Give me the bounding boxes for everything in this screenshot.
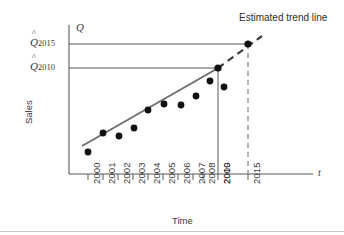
- y-marker-label-2015: ^Q2015: [30, 37, 55, 48]
- data-point: [145, 107, 152, 114]
- data-point: [161, 101, 168, 108]
- y-marker-sub-2015: 2015: [38, 38, 55, 48]
- x-tick-label-2002: 2002: [122, 162, 132, 184]
- data-point: [178, 102, 185, 109]
- y-axis-symbol: Q: [76, 22, 84, 33]
- y-axis-title: Sales: [24, 100, 34, 124]
- data-point: [207, 78, 214, 85]
- x-tick-label-2008: 2008: [207, 162, 217, 184]
- x-axis-title: Time: [172, 216, 193, 226]
- forecast-point-2015: [244, 40, 251, 47]
- x-tick-label-2010: 2010: [222, 162, 232, 184]
- x-tick-label-2006: 2006: [182, 162, 192, 184]
- y-marker-sub-2010: 2010: [38, 62, 55, 72]
- hat-accent-icon: ^: [30, 53, 38, 62]
- y-marker-base-2015: ^Q: [30, 36, 38, 48]
- y-marker-base-2010: ^Q: [30, 60, 38, 72]
- data-point: [131, 125, 138, 132]
- trend-line-annotation: Estimated trend line: [239, 13, 327, 23]
- hat-accent-icon: ^: [30, 29, 38, 38]
- trend-line-forecast: [218, 36, 262, 68]
- data-point: [116, 133, 123, 140]
- x-axis-symbol: t: [318, 168, 321, 178]
- data-point: [193, 93, 200, 100]
- data-point: [85, 149, 92, 156]
- data-points: [85, 78, 228, 156]
- figure-container: Q t Sales Time ^Q2015 ^Q2010 Estimated t…: [0, 0, 344, 235]
- bottom-divider: [0, 231, 344, 232]
- data-point: [221, 84, 228, 91]
- x-tick-label-2005: 2005: [167, 162, 177, 184]
- y-marker-label-2010: ^Q2010: [30, 61, 55, 72]
- x-tick-label-2004: 2004: [152, 162, 162, 184]
- x-tick-label-2003: 2003: [137, 162, 147, 184]
- x-tick-label-2001: 2001: [107, 162, 117, 184]
- data-point: [100, 130, 107, 137]
- x-tick-label-2015: 2015: [252, 162, 262, 184]
- x-tick-label-2000: 2000: [92, 162, 102, 184]
- forecast-point-2010: [214, 64, 221, 71]
- trend-line-chart: [0, 0, 344, 235]
